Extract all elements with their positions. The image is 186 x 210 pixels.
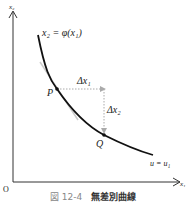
delta-x1-arrow-icon	[100, 86, 106, 92]
figure-caption: 図 12-4 無差別曲線	[0, 190, 186, 203]
delta-x2-label: Δx₂	[106, 104, 121, 115]
curve-equation-label: x₂ = φ(x₁)	[41, 27, 82, 39]
figure-number: 図 12-4	[50, 192, 82, 202]
point-Q-label: Q	[96, 138, 104, 149]
indifference-curve-diagram: x₂ x₁ O x₂ = φ(x₁) u = u₁ P Q Δx₁ Δx₂	[0, 0, 186, 210]
point-Q	[102, 133, 106, 137]
figure-title: 無差別曲線	[91, 192, 136, 202]
y-axis-label: x₂	[8, 3, 15, 11]
point-P-label: P	[46, 87, 53, 98]
level-label: u = u₁	[150, 159, 170, 168]
indifference-curve	[38, 35, 153, 155]
x-axis-label: x₁	[179, 180, 186, 188]
delta-x1-label: Δx₁	[76, 75, 91, 86]
point-P	[55, 87, 59, 91]
